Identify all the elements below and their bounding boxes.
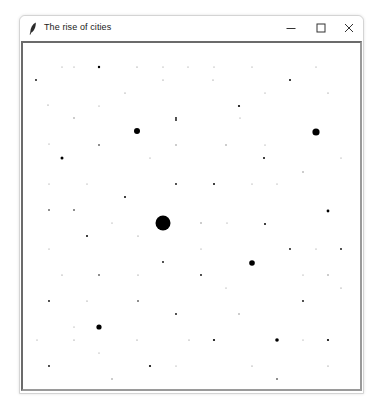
close-icon — [344, 19, 354, 37]
maximize-button[interactable] — [306, 16, 336, 40]
app-window: The rise of cities — [19, 15, 364, 394]
close-button[interactable] — [334, 16, 364, 40]
maximize-icon — [316, 19, 326, 37]
city-canvas[interactable] — [21, 41, 362, 391]
minimize-button[interactable] — [276, 16, 306, 40]
minimize-icon — [286, 19, 296, 37]
window-title: The rise of cities — [44, 22, 111, 32]
feather-icon — [29, 21, 37, 34]
title-bar[interactable]: The rise of cities — [20, 16, 363, 40]
